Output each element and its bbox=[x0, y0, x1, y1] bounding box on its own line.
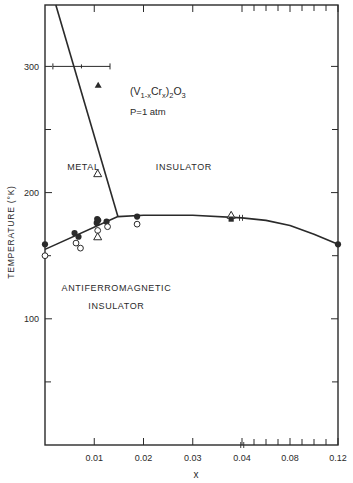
y-tick-label: 100 bbox=[24, 314, 39, 324]
data-markers bbox=[42, 82, 341, 448]
filled-circle-marker bbox=[134, 213, 140, 219]
filled-circle-marker bbox=[95, 217, 101, 223]
x-tick-label: 0.04 bbox=[233, 453, 251, 463]
x-tick-label: 0.08 bbox=[281, 453, 299, 463]
y-tick-label: 200 bbox=[24, 188, 39, 198]
x-tick-label: 0.03 bbox=[184, 453, 202, 463]
phase-diagram-chart: 0.010.020.030.040.080.12100200300 METALI… bbox=[0, 0, 353, 483]
phase-boundaries bbox=[45, 5, 338, 249]
plot-border bbox=[45, 5, 338, 445]
error-bar bbox=[53, 63, 110, 69]
open-circle-marker bbox=[78, 245, 84, 251]
open-circle-marker bbox=[73, 240, 79, 246]
metal-insulator-line bbox=[56, 5, 118, 217]
region-label: METAL bbox=[67, 162, 99, 172]
x-tick-label: 0.12 bbox=[329, 453, 347, 463]
y-tick-label: 300 bbox=[24, 62, 39, 72]
open-circle-marker bbox=[42, 253, 48, 259]
pressure-label: P=1 atm bbox=[130, 106, 166, 117]
region-labels: METALINSULATORANTIFERROMAGNETICINSULATOR bbox=[62, 162, 212, 311]
open-circle-marker bbox=[105, 224, 111, 230]
x-tick-label: 0.02 bbox=[135, 453, 153, 463]
filled-triangle-marker bbox=[95, 82, 102, 88]
y-axis-label: TEMPERATURE (°K) bbox=[6, 185, 16, 279]
region-label: INSULATOR bbox=[88, 301, 144, 311]
filled-circle-marker bbox=[42, 241, 48, 247]
axis-ticks bbox=[45, 5, 338, 445]
open-triangle-marker bbox=[94, 233, 102, 240]
plot-frame bbox=[45, 5, 338, 445]
formula-label: (V1-xCrx)2O3 bbox=[130, 85, 186, 100]
filled-circle-marker bbox=[335, 241, 341, 247]
axis-tick-labels: 0.010.020.030.040.080.12100200300 bbox=[24, 62, 347, 463]
filled-circle-marker bbox=[75, 234, 81, 240]
region-label: INSULATOR bbox=[156, 162, 212, 172]
antiferromagnetic-boundary-line bbox=[45, 215, 338, 249]
region-label: ANTIFERROMAGNETIC bbox=[62, 283, 172, 293]
x-tick-label: 0.01 bbox=[85, 453, 103, 463]
open-circle-marker bbox=[134, 221, 140, 227]
x-axis-label: x bbox=[194, 469, 199, 480]
filled-square-marker bbox=[229, 217, 234, 222]
